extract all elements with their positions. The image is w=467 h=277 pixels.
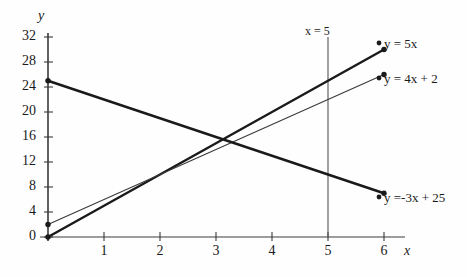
x-axis-label: x: [404, 243, 410, 259]
y-tick-label: 12: [12, 153, 36, 169]
x-tick-label: 2: [150, 243, 170, 259]
y-tick-label: 32: [12, 28, 36, 44]
y-tick-label: 16: [12, 128, 36, 144]
y-tick-label: 0: [12, 228, 36, 244]
series-lines: [48, 50, 384, 238]
x-tick-label: 5: [318, 243, 338, 259]
series-label-y4x2: y = 4x + 2: [384, 71, 438, 87]
y-tick-label: 4: [12, 203, 36, 219]
y-tick-label: 8: [12, 178, 36, 194]
series-endpoint-dot: [45, 78, 50, 83]
series-endpoint-dot: [45, 234, 50, 239]
y-tick-label: 20: [12, 103, 36, 119]
x-tick-label: 4: [262, 243, 282, 259]
vline-label-x5: x = 5: [305, 24, 330, 39]
equation-label-dot: [377, 76, 382, 81]
equation-label-dot: [377, 41, 382, 46]
x-tick-label: 1: [94, 243, 114, 259]
equation-label-dots: [377, 41, 382, 200]
x-tick-label: 3: [206, 243, 226, 259]
y-axis-label: y: [38, 8, 44, 24]
y-tick-label: 28: [12, 53, 36, 69]
series-line: [48, 81, 384, 194]
x-tick-label: 6: [374, 243, 394, 259]
chart-figure: y x 048121620242832 123456 x = 5 y = 5x …: [0, 0, 467, 277]
series-line: [48, 50, 384, 238]
series-label-yn3x25: y =-3x + 25: [384, 190, 445, 206]
series-label-y5x: y = 5x: [384, 36, 417, 52]
equation-label-dot: [377, 195, 382, 200]
series-endpoint-dot: [45, 222, 50, 227]
y-tick-label: 24: [12, 78, 36, 94]
